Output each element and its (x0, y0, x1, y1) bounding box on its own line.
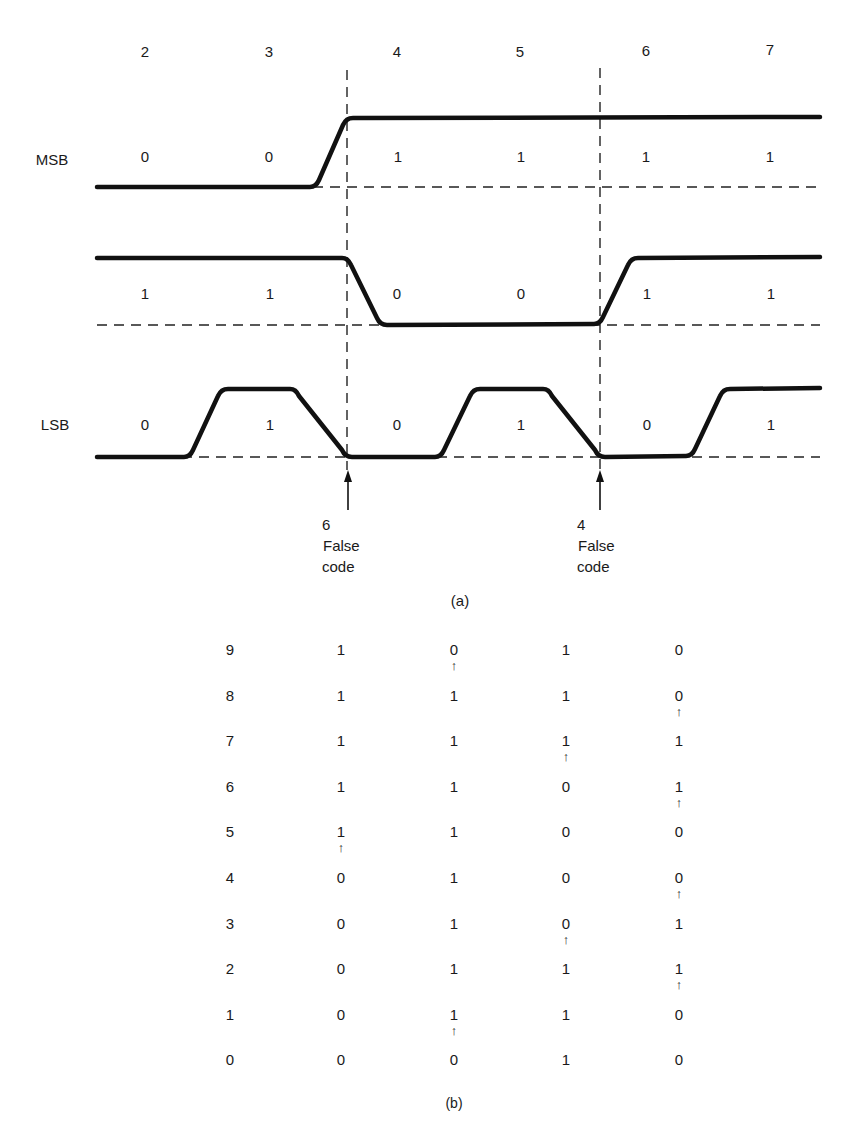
row-code: 6 (220, 778, 240, 796)
false-code-label: code (322, 558, 355, 575)
row-code: 8 (220, 687, 240, 705)
bit-value: 0 (393, 285, 401, 302)
bit-value: 1 (556, 960, 576, 978)
bit-value: 0 (265, 148, 273, 165)
figure-caption-a: (a) (451, 592, 469, 609)
arrow-head-icon (344, 470, 352, 482)
bit-value: 1 (767, 416, 775, 433)
bit-value: 0 (444, 1051, 464, 1069)
bit-value: 1 (517, 148, 525, 165)
bit-value: 1 (766, 148, 774, 165)
up-arrow-icon: ↑ (444, 1025, 464, 1037)
false-code-marker: 6 False code (322, 470, 360, 575)
row-code: 9 (220, 641, 240, 659)
bit-value: 0 (331, 960, 351, 978)
mid-waveform (97, 257, 820, 325)
up-arrow-icon: ↑ (331, 842, 351, 854)
row-code: 7 (220, 732, 240, 750)
false-code-label: False (323, 537, 360, 554)
bit-value: 0 (331, 1006, 351, 1024)
bit-value: 0 (643, 416, 651, 433)
bit-value: 0 (556, 915, 576, 933)
bit-value: 1 (394, 148, 402, 165)
bit-value: 0 (517, 285, 525, 302)
up-arrow-icon: ↑ (556, 934, 576, 946)
bit-value: 0 (331, 915, 351, 933)
bit-value: 1 (556, 732, 576, 750)
false-code-label: False (578, 537, 615, 554)
row-code: 3 (220, 915, 240, 933)
row-code: 4 (220, 869, 240, 887)
false-code-value: 6 (322, 516, 330, 533)
bit-value: 1 (444, 960, 464, 978)
bit-value: 1 (331, 687, 351, 705)
bit-value: 0 (669, 687, 689, 705)
column-code: 6 (642, 42, 650, 59)
bit-value: 1 (266, 285, 274, 302)
column-code: 7 (766, 41, 774, 58)
msb-bit-values: 0 0 1 1 1 1 (141, 148, 774, 165)
bit-value: 0 (669, 1006, 689, 1024)
up-arrow-icon: ↑ (669, 979, 689, 991)
msb-waveform (97, 117, 820, 187)
bit-value: 0 (669, 869, 689, 887)
false-code-label: code (577, 558, 610, 575)
bit-value: 1 (331, 778, 351, 796)
bit-value: 1 (331, 732, 351, 750)
up-arrow-icon: ↑ (556, 751, 576, 763)
bit-value: 1 (444, 915, 464, 933)
false-code-value: 4 (577, 516, 585, 533)
bit-value: 0 (669, 1051, 689, 1069)
bit-value: 0 (556, 778, 576, 796)
column-code: 4 (393, 43, 401, 60)
mid-bit-values: 1 1 0 0 1 1 (141, 285, 775, 302)
bit-value: 1 (141, 285, 149, 302)
bit-value: 1 (444, 1006, 464, 1024)
row-code: 0 (220, 1051, 240, 1069)
bit-value: 0 (331, 869, 351, 887)
bit-value: 1 (444, 823, 464, 841)
bit-value: 0 (393, 416, 401, 433)
bit-value: 0 (141, 148, 149, 165)
bit-value: 0 (444, 641, 464, 659)
bit-value: 1 (517, 416, 525, 433)
bit-value: 1 (669, 732, 689, 750)
row-code: 1 (220, 1006, 240, 1024)
bit-value: 1 (669, 960, 689, 978)
bit-value: 1 (444, 778, 464, 796)
row-label-lsb: LSB (41, 416, 69, 433)
timing-diagram: 2 3 4 5 6 7 MSB LSB 0 0 1 1 1 1 1 1 0 0 … (0, 0, 842, 1138)
arrow-head-icon (596, 470, 604, 482)
row-code: 2 (220, 960, 240, 978)
bit-value: 1 (669, 778, 689, 796)
bit-value: 1 (556, 687, 576, 705)
column-code: 3 (265, 43, 273, 60)
bit-value: 1 (444, 732, 464, 750)
column-code: 2 (141, 43, 149, 60)
bit-value: 1 (669, 915, 689, 933)
bit-value: 1 (556, 1051, 576, 1069)
up-arrow-icon: ↑ (444, 660, 464, 672)
column-code: 5 (516, 43, 524, 60)
bit-value: 1 (642, 148, 650, 165)
bit-value: 1 (643, 285, 651, 302)
bit-value: 0 (556, 823, 576, 841)
bit-value: 0 (141, 416, 149, 433)
bit-value: 1 (266, 416, 274, 433)
bit-value: 1 (331, 641, 351, 659)
figure-caption-b: (b) (434, 1095, 474, 1111)
up-arrow-icon: ↑ (669, 888, 689, 900)
bit-value: 0 (556, 869, 576, 887)
bit-value: 1 (444, 869, 464, 887)
bit-value: 0 (669, 641, 689, 659)
bit-value: 1 (331, 823, 351, 841)
column-code-labels: 2 3 4 5 6 7 (141, 41, 774, 60)
lsb-waveform (97, 388, 820, 457)
up-arrow-icon: ↑ (669, 797, 689, 809)
bit-value: 0 (331, 1051, 351, 1069)
row-label-msb: MSB (36, 151, 69, 168)
bit-value: 1 (556, 1006, 576, 1024)
bit-value: 0 (669, 823, 689, 841)
up-arrow-icon: ↑ (669, 706, 689, 718)
bit-value: 1 (767, 285, 775, 302)
